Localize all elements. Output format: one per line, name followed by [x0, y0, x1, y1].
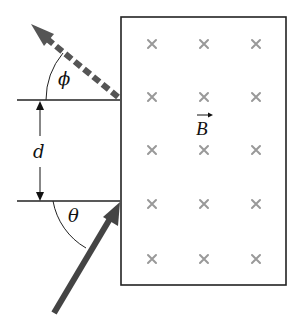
x-mark-icon [200, 40, 208, 48]
incoming-particle-arrow [54, 202, 120, 313]
distance-label: d [33, 141, 45, 162]
theta-label: θ [68, 205, 79, 226]
magnetic-field-diagram: B d ϕ θ [0, 0, 297, 319]
field-marks [148, 40, 260, 263]
phi-label: ϕ [58, 68, 70, 89]
x-mark-icon [200, 200, 208, 208]
x-mark-icon [252, 93, 260, 101]
x-mark-icon [252, 255, 260, 263]
x-mark-icon [148, 93, 156, 101]
field-label-text: B [196, 118, 208, 139]
x-mark-icon [252, 146, 260, 154]
outgoing-particle-arrow [31, 24, 118, 97]
x-mark-icon [200, 146, 208, 154]
x-mark-icon [200, 93, 208, 101]
x-mark-icon [252, 40, 260, 48]
x-mark-icon [148, 200, 156, 208]
x-mark-icon [148, 40, 156, 48]
x-mark-icon [252, 200, 260, 208]
x-mark-icon [148, 146, 156, 154]
x-mark-icon [200, 255, 208, 263]
x-mark-icon [148, 255, 156, 263]
distance-indicator: d [33, 101, 45, 201]
field-label: B [196, 113, 213, 140]
